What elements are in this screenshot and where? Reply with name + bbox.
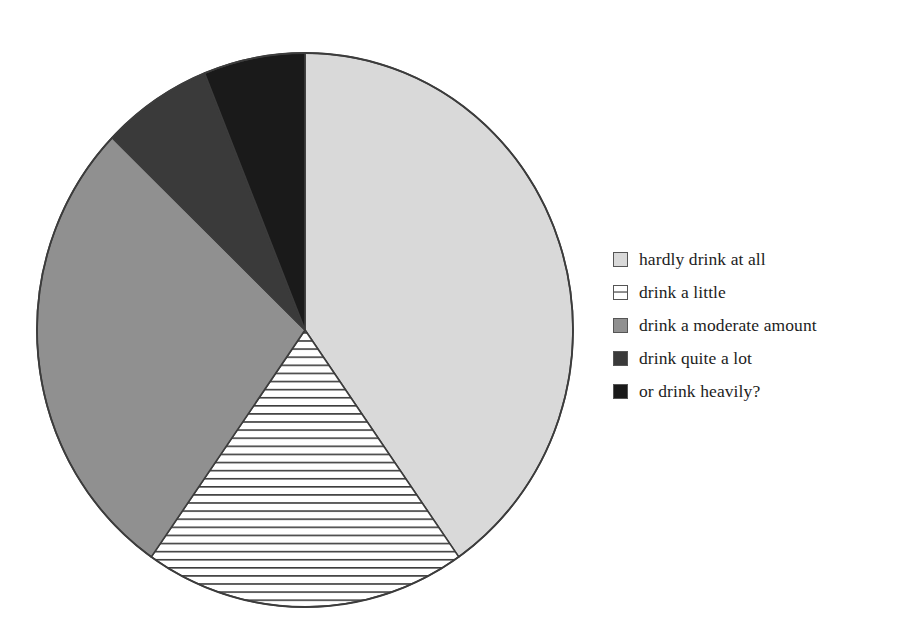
legend-label-or-drink-heavily: or drink heavily? <box>639 383 760 401</box>
legend-label-drink-quite-a-lot: drink quite a lot <box>639 350 752 368</box>
chart-legend: hardly drink at all drink a little drink… <box>613 243 903 408</box>
legend-item-drink-a-moderate-amount[interactable]: drink a moderate amount <box>613 309 903 342</box>
legend-swatch-drink-a-little <box>613 285 628 300</box>
legend-swatch-or-drink-heavily <box>613 384 628 399</box>
legend-swatch-drink-a-moderate-amount <box>613 318 628 333</box>
legend-item-drink-a-little[interactable]: drink a little <box>613 276 903 309</box>
legend-label-drink-a-moderate-amount: drink a moderate amount <box>639 317 817 335</box>
pie-chart-figure: hardly drink at all drink a little drink… <box>0 0 915 640</box>
legend-swatch-hardly-drink-at-all <box>613 252 628 267</box>
legend-item-drink-quite-a-lot[interactable]: drink quite a lot <box>613 342 903 375</box>
legend-swatch-drink-quite-a-lot <box>613 351 628 366</box>
legend-label-drink-a-little: drink a little <box>639 284 726 302</box>
legend-item-or-drink-heavily[interactable]: or drink heavily? <box>613 375 903 408</box>
legend-item-hardly-drink-at-all[interactable]: hardly drink at all <box>613 243 903 276</box>
legend-label-hardly-drink-at-all: hardly drink at all <box>639 251 766 269</box>
